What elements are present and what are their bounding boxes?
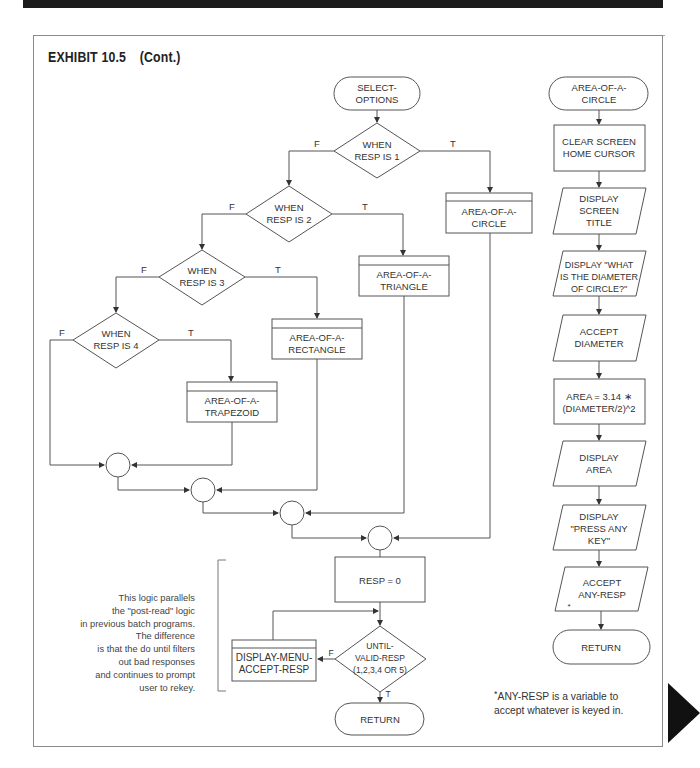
step5-label-1: AREA = 3.14 ∗ xyxy=(566,391,631,402)
until-label-1: UNTIL- xyxy=(366,641,394,651)
design-note: This logic parallels the "post-read" log… xyxy=(60,592,195,694)
module-triangle-label-1: AREA-OF-A- xyxy=(377,269,432,280)
d3-true-label: T xyxy=(275,264,281,275)
note-line: out bad responses xyxy=(60,656,195,669)
note-line: in previous batch programs. xyxy=(60,618,195,631)
step8-asterisk: * xyxy=(567,602,570,611)
d3-label-1: WHEN xyxy=(187,265,216,276)
step8-label-2: ANY-RESP xyxy=(578,589,626,600)
circle-start-label-2: CIRCLE xyxy=(582,94,617,105)
until-label-3: (1,2,3,4 OR 5) xyxy=(353,665,407,675)
step7-label-3: KEY" xyxy=(588,535,610,546)
d1-label-1: WHEN xyxy=(362,139,391,150)
module-rectangle-label-2: RECTANGLE xyxy=(288,344,345,355)
circle-start-label-1: AREA-OF-A- xyxy=(572,82,627,93)
step2-label-3: TITLE xyxy=(586,217,612,228)
step4-label-1: ACCEPT xyxy=(580,326,619,337)
footnote-line: accept whatever is keyed in. xyxy=(494,704,664,718)
footnote: *ANY-RESP is a variable to accept whatev… xyxy=(494,687,664,718)
note-line: user to rekey. xyxy=(60,682,195,695)
step7-label-1: DISPLAY xyxy=(579,511,619,522)
note-line: The difference xyxy=(60,630,195,643)
note-line: This logic parallels xyxy=(60,592,195,605)
until-false-label: F xyxy=(328,648,333,658)
step4-label-2: DIAMETER xyxy=(574,338,623,349)
module-trapezoid-label-1: AREA-OF-A- xyxy=(205,395,260,406)
d4-true-label: T xyxy=(188,327,194,338)
step3-label-1: DISPLAY "WHAT xyxy=(565,260,634,270)
step2-label-2: SCREEN xyxy=(579,205,619,216)
module-triangle-label-2: TRIANGLE xyxy=(380,281,428,292)
module-circle-label-2: CIRCLE xyxy=(472,218,507,229)
step3-label-3: OF CIRCLE?" xyxy=(571,284,627,294)
d3-false-label: F xyxy=(141,264,147,275)
resp-reset-label: RESP = 0 xyxy=(359,575,401,586)
d1-true-label: T xyxy=(450,138,456,149)
d4-label-1: WHEN xyxy=(101,328,130,339)
footnote-line: ANY-RESP is a variable to xyxy=(498,691,619,702)
d2-label-2: RESP IS 2 xyxy=(266,214,311,225)
step1-label-1: CLEAR SCREEN xyxy=(562,136,636,147)
note-line: the "post-read" logic xyxy=(60,605,195,618)
select-options-label-2: OPTIONS xyxy=(356,94,399,105)
module-circle-label-1: AREA-OF-A- xyxy=(462,206,517,217)
connector-4 xyxy=(368,526,392,550)
d2-true-label: T xyxy=(362,201,368,212)
step7-label-2: "PRESS ANY xyxy=(570,523,628,534)
step1-label-2: HOME CURSOR xyxy=(563,148,635,159)
page-corner-tab xyxy=(668,683,700,743)
select-options-label-1: SELECT- xyxy=(357,82,397,93)
step2-label-1: DISPLAY xyxy=(579,193,619,204)
select-options-return-label: RETURN xyxy=(360,714,400,725)
step5-label-2: (DIAMETER/2)^2 xyxy=(562,403,635,414)
d4-false-label: F xyxy=(59,327,65,338)
d2-false-label: F xyxy=(229,201,235,212)
loop-module-label-2: ACCEPT-RESP xyxy=(239,664,310,675)
note-line: and continues to prompt xyxy=(60,669,195,682)
d1-label-2: RESP IS 1 xyxy=(354,151,399,162)
note-line: is that the do until filters xyxy=(60,643,195,656)
step6-label-1: DISPLAY xyxy=(579,452,619,463)
module-trapezoid-label-2: TRAPEZOID xyxy=(205,407,260,418)
until-label-2: VALID-RESP xyxy=(355,653,405,663)
circle-return-label: RETURN xyxy=(581,642,621,653)
connector-1 xyxy=(106,453,130,477)
connector-2 xyxy=(191,478,215,502)
step6-label-2: AREA xyxy=(586,464,613,475)
d4-label-2: RESP IS 4 xyxy=(93,340,138,351)
note-bracket xyxy=(218,560,226,691)
step3-label-2: IS THE DIAMETER xyxy=(560,272,638,282)
connector-3 xyxy=(280,501,304,525)
loop-module-label-1: DISPLAY-MENU- xyxy=(236,652,313,663)
until-true-label: T xyxy=(385,689,390,699)
d3-label-2: RESP IS 3 xyxy=(179,277,224,288)
d1-false-label: F xyxy=(314,138,320,149)
d2-label-1: WHEN xyxy=(274,202,303,213)
step8-label-1: ACCEPT xyxy=(583,577,622,588)
module-rectangle-label-1: AREA-OF-A- xyxy=(290,332,345,343)
